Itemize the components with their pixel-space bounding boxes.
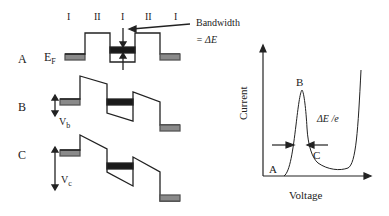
region-label-4: II — [145, 12, 152, 22]
bandwidth-value: = ΔE — [196, 35, 217, 45]
region-label-1: I — [67, 12, 70, 22]
region-label-2: II — [94, 12, 101, 22]
x-axis-label: Voltage — [289, 190, 322, 201]
region-label-3: I — [121, 12, 124, 22]
band-diagram-a — [65, 24, 190, 70]
band-diagram-c — [52, 135, 180, 201]
bandwidth-label: Bandwidth — [196, 18, 240, 28]
voltage-c-label: Vc — [61, 175, 72, 188]
row-label-c: C — [18, 149, 26, 161]
diagram-canvas — [0, 0, 389, 216]
band-diagram-b — [52, 76, 180, 131]
row-label-b: B — [18, 101, 26, 113]
point-c-label: C — [313, 150, 320, 161]
row-label-a: A — [18, 53, 27, 65]
voltage-b-label: Vb — [59, 117, 70, 130]
region-label-5: I — [174, 12, 177, 22]
point-b-label: B — [296, 77, 303, 88]
y-axis-label: Current — [238, 86, 249, 120]
point-a-label: A — [269, 164, 277, 175]
fermi-level-label: EF — [44, 51, 56, 66]
width-label: ΔE /e — [317, 114, 339, 124]
